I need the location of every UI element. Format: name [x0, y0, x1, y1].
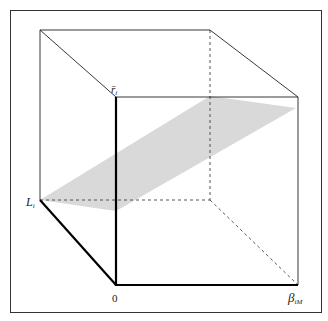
label-r-bar: r̄i	[111, 83, 117, 97]
cube-diagram: r̄i Li 0 βiM	[0, 0, 328, 321]
label-origin: 0	[112, 292, 118, 304]
label-L: Li	[25, 195, 35, 210]
shaded-plane	[40, 96, 296, 211]
label-beta: βiM	[287, 290, 303, 306]
depth-axis	[40, 200, 116, 285]
